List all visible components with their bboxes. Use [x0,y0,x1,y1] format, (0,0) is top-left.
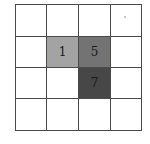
grid-cell-r2c0 [16,68,47,99]
grid-cell-r0c0 [16,5,47,37]
grid-cell-r2c2: 7 [79,68,111,99]
grid-cell-r3c3 [111,99,141,130]
grid-cell-r0c2 [79,5,111,37]
grid-diagram: 1 5 7 [15,4,142,131]
grid-cell-r2c1 [47,68,79,99]
grid-cell-r3c1 [47,99,79,130]
grid-cell-r0c3 [111,5,141,37]
grid-cell-r1c3 [111,37,141,68]
grid-cell-r1c1: 1 [47,37,79,68]
grid-cell-r3c0 [16,99,47,130]
grid-cell-r3c2 [79,99,111,130]
grid-cell-r1c0 [16,37,47,68]
grid-cell-r1c2: 5 [79,37,111,68]
grid-cell-r0c1 [47,5,79,37]
faint-dot-mark [124,16,126,18]
grid-cell-r2c3 [111,68,141,99]
